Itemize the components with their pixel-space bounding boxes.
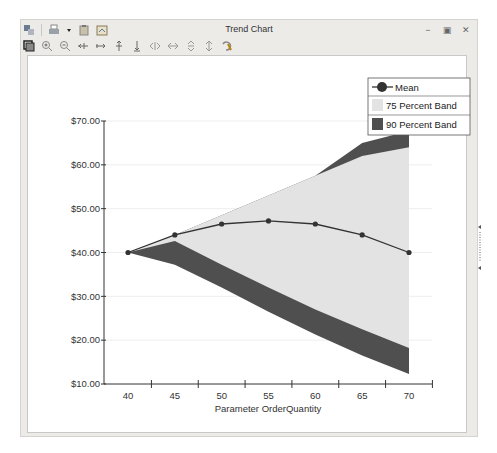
x-tick-label: 60 [310, 390, 321, 401]
legend-item-mean: Mean [372, 82, 419, 93]
mean-point [406, 250, 411, 255]
y-tick-label: $70.00 [71, 115, 100, 126]
legend-label-75: 75 Percent Band [386, 100, 457, 111]
x-axis-label: Parameter OrderQuantity [215, 403, 322, 414]
legend-label-90: 90 Percent Band [386, 119, 457, 130]
legend: Mean 75 Percent Band 90 Percent Band [368, 78, 470, 135]
mean-marker-icon [377, 82, 387, 92]
mean-point [266, 218, 271, 223]
mean-point [219, 221, 224, 226]
y-tick-label: $40.00 [71, 247, 100, 258]
x-tick-label: 70 [404, 390, 415, 401]
mean-point [125, 250, 130, 255]
trend-chart: $10.00$20.00$30.00$40.00$50.00$60.00$70.… [0, 0, 497, 453]
band-90-swatch-icon [372, 118, 383, 130]
y-tick-label: $30.00 [71, 291, 100, 302]
legend-label-mean: Mean [395, 82, 419, 93]
x-tick-label: 45 [170, 390, 181, 401]
y-tick-label: $10.00 [71, 378, 100, 389]
mean-point [313, 221, 318, 226]
x-tick-label: 55 [263, 390, 274, 401]
y-tick-label: $60.00 [71, 159, 100, 170]
x-tick-label: 65 [357, 390, 368, 401]
mean-point [360, 232, 365, 237]
x-tick-label: 40 [123, 390, 134, 401]
x-tick-label: 50 [216, 390, 227, 401]
band-75-swatch-icon [372, 99, 383, 111]
splitter-sash[interactable] [478, 225, 481, 270]
mean-point [172, 232, 177, 237]
y-tick-label: $50.00 [71, 203, 100, 214]
y-tick-label: $20.00 [71, 334, 100, 345]
